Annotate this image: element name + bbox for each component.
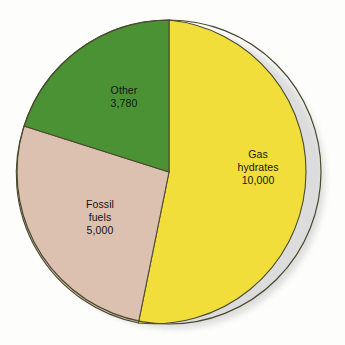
pie-chart-svg <box>0 0 345 345</box>
pie-chart-figure: Gas hydrates 10,000 Fossil fuels 5,000 O… <box>0 0 345 345</box>
